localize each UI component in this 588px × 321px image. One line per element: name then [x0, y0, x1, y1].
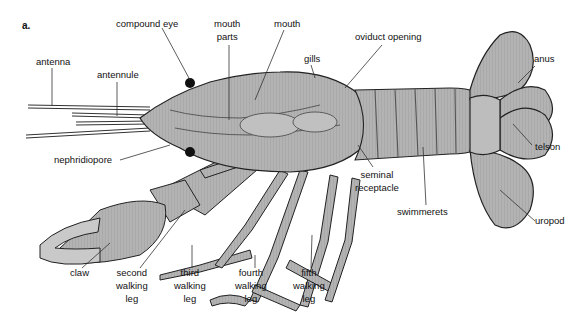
- label-claw: claw: [70, 266, 89, 279]
- compound-eye-dot-lower: [185, 147, 195, 157]
- anatomy-figure: a. compound eye mouth parts mouth antenn…: [0, 0, 588, 321]
- antennule-drawing: [72, 113, 150, 125]
- label-fourth-walking-leg: fourth walking leg: [235, 266, 267, 305]
- label-swimmerets: swimmerets: [397, 205, 448, 218]
- label-compound-eye: compound eye: [116, 17, 178, 30]
- label-mouth: mouth: [274, 17, 300, 30]
- label-anus: anus: [534, 52, 555, 65]
- label-nephridiopore: nephridiopore: [54, 153, 112, 166]
- label-second-walking-leg: second walking leg: [116, 266, 148, 305]
- label-third-walking-leg: third walking leg: [174, 266, 206, 305]
- label-gills: gills: [304, 52, 320, 65]
- panel-label: a.: [22, 20, 30, 31]
- abdomen-drawing: [355, 88, 475, 160]
- label-telson: telson: [535, 140, 560, 153]
- label-seminal-receptacle: seminal receptacle: [355, 168, 399, 194]
- label-oviduct-opening: oviduct opening: [355, 30, 422, 43]
- label-antennule: antennule: [97, 68, 139, 81]
- carapace-drawing: [140, 72, 369, 172]
- label-mouth-parts: mouth parts: [214, 17, 240, 43]
- label-uropod: uropod: [535, 214, 565, 227]
- label-antenna: antenna: [36, 55, 70, 68]
- label-fifth-walking-leg: fifth walking leg: [293, 266, 325, 305]
